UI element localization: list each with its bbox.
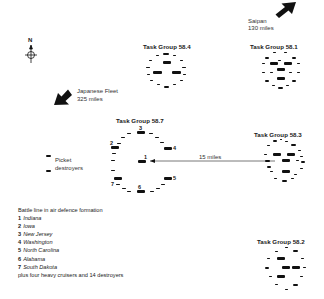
battleship-5-north-carolina (164, 177, 172, 180)
japanese-fleet-arrow-icon (54, 90, 72, 106)
saipan-label: Saipan (248, 18, 267, 25)
battleship-number-7: 7 (111, 181, 114, 187)
legend-title: Battle line in air defence formation (18, 206, 123, 214)
legend-item-4: 4Washington (18, 238, 123, 246)
japanese-fleet-label: Japanese Fleet (77, 88, 118, 95)
task-group-58-2-title: Task Group 58.2 (257, 238, 305, 245)
legend-item-5: 5North Carolina (18, 246, 123, 254)
legend-item-1: 1Indiana (18, 214, 123, 222)
picket-label-line1: Picket (55, 157, 71, 164)
battleship-4-washington (164, 147, 172, 150)
legend-item-6: 6Alabama (18, 255, 123, 263)
battleship-2-iowa (111, 146, 119, 149)
legend-item-7: 7South Dakota (18, 263, 123, 271)
battleship-number-3: 3 (139, 125, 142, 131)
legend-item-3: 3New Jersey (18, 230, 123, 238)
compass-rose-icon (25, 45, 37, 63)
battleship-number-2: 2 (110, 140, 113, 146)
legend-footer: plus four heavy cruisers and 14 destroye… (18, 271, 123, 279)
battleship-7-south-dakota (114, 177, 122, 180)
picket-label-line2: destroyers (55, 165, 83, 172)
legend-item-2: 2Iowa (18, 222, 123, 230)
battleship-number-4: 4 (173, 145, 176, 151)
picket-destroyer-north (46, 155, 51, 157)
saipan-direction-arrow-icon (276, 2, 297, 18)
saipan-distance: 130 miles (248, 25, 274, 32)
battleship-1-indiana (138, 160, 146, 163)
task-group-58-4-title: Task Group 58.4 (143, 43, 191, 50)
compass-north-label: N (28, 37, 32, 44)
battleship-number-6: 6 (138, 184, 141, 190)
battleship-number-5: 5 (173, 175, 176, 181)
distance-label: 15 miles (199, 154, 221, 161)
task-group-58-3-title: Task Group 58.3 (254, 131, 302, 138)
battleship-3-new-jersey (137, 131, 145, 134)
battleship-number-1: 1 (144, 154, 147, 160)
battleship-6-alabama (137, 190, 145, 193)
task-group-58-1-title: Task Group 58.1 (250, 43, 298, 50)
legend: Battle line in air defence formation 1In… (18, 206, 123, 279)
japanese-fleet-distance: 325 miles (77, 96, 103, 103)
task-group-58-7-title: Task Group 58.7 (116, 117, 164, 124)
formation-diagram: N Saipan 130 miles Japanese Fleet 325 mi… (0, 0, 324, 299)
picket-destroyer-south (46, 170, 51, 172)
